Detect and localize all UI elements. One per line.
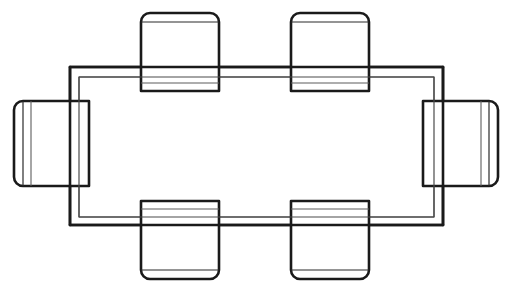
chair-bottom-right-outline (291, 201, 369, 279)
chair-top-right-group[interactable] (291, 13, 369, 91)
chair-top-left-outline (141, 13, 219, 91)
drawing-canvas (0, 0, 511, 290)
chair-left-group[interactable] (14, 101, 89, 186)
table-top-outline (70, 67, 443, 225)
chair-top-left-group[interactable] (141, 13, 219, 91)
chair-bottom-left-outline (141, 201, 219, 279)
chair-bottom-left-group[interactable] (141, 201, 219, 279)
table-group[interactable] (70, 67, 443, 225)
furniture-plan-drawing (0, 0, 511, 290)
chair-top-right-outline (291, 13, 369, 91)
chair-bottom-right-group[interactable] (291, 201, 369, 279)
chair-left-outline (14, 101, 89, 186)
